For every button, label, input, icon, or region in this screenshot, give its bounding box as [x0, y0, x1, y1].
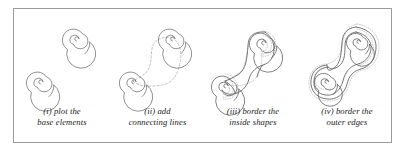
spirals-iv — [314, 33, 374, 106]
panel-iv-caption-line2: outer edges — [301, 117, 393, 128]
panel-i: (i) plot the base elements — [14, 9, 110, 144]
panel-iii-artwork — [205, 11, 301, 106]
figure-frame: (i) plot the base elements — [13, 8, 392, 143]
panel-ii-caption-line1: (ii) add — [110, 106, 205, 117]
panel-ii-caption-line2: connecting lines — [110, 117, 205, 128]
panel-i-caption: (i) plot the base elements — [14, 106, 110, 128]
spirals-iii — [211, 33, 282, 115]
figure-root: (i) plot the base elements — [0, 0, 406, 155]
connector-right — [133, 38, 181, 87]
band-outline-iii — [222, 32, 274, 94]
panel-i-caption-line1: (i) plot the — [14, 106, 110, 117]
panel-iv: (iv) border the outer edges — [301, 9, 393, 144]
panel-iv-caption: (iv) border the outer edges — [301, 106, 393, 128]
panel-ii-caption: (ii) add connecting lines — [110, 106, 205, 128]
panel-i-artwork — [14, 11, 110, 106]
connector-left — [133, 37, 173, 81]
panel-ii-artwork — [110, 11, 205, 106]
dotted-guides-iii — [223, 31, 276, 99]
connecting-lines-ii — [133, 37, 181, 86]
panel-iii: (iii) border the inside shapes — [205, 9, 301, 144]
dotted-offset-iv — [309, 24, 379, 101]
spiral-upper-ii — [158, 29, 191, 68]
panel-iii-caption: (iii) border the inside shapes — [205, 106, 301, 128]
panel-i-caption-line2: base elements — [14, 117, 110, 128]
panel-iii-caption-line1: (iii) border the — [205, 106, 301, 117]
panel-iii-caption-line2: inside shapes — [205, 117, 301, 128]
spiral-upper-i — [62, 29, 95, 68]
panel-iv-caption-line1: (iv) border the — [301, 106, 393, 117]
panel-iv-artwork — [301, 11, 393, 106]
panel-ii: (ii) add connecting lines — [110, 9, 205, 144]
